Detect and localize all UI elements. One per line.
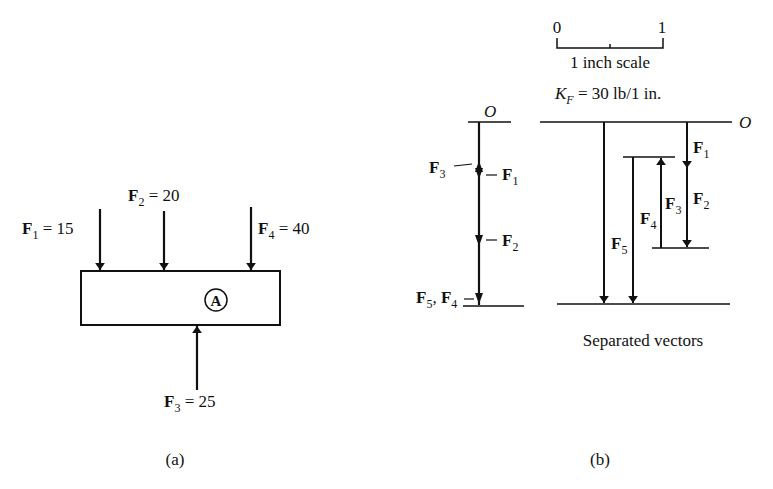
separated-vectors-caption: Separated vectors xyxy=(583,331,703,350)
force-f4-label: F4 = 40 xyxy=(258,219,309,242)
vector-f3-label: F3 xyxy=(665,194,681,217)
scale-start-label: 0 xyxy=(553,18,562,37)
separated-vector-diagram: O F5 F4 F3 F1 xyxy=(540,113,751,350)
scale-end-label: 1 xyxy=(658,18,667,37)
vector-f2-label: F2 xyxy=(693,189,709,212)
combined-f5-f4-label: F5, F4 xyxy=(416,288,457,311)
combined-vector-diagram: O F3 F1 F2 F5, F4 xyxy=(416,102,524,311)
scale-caption: 1 inch scale xyxy=(570,53,650,72)
force-diagram: A F1 = 15 F2 = 20 F4 = 40 F3 = 25 (a) 0 … xyxy=(0,0,773,489)
panel-a: A F1 = 15 F2 = 20 F4 = 40 F3 = 25 (a) xyxy=(22,186,309,469)
combined-f3-label: F3 xyxy=(429,158,445,181)
origin-label: O xyxy=(484,102,496,121)
kf-label: KF = 30 lb/1 in. xyxy=(554,84,661,107)
vector-f4-label: F4 xyxy=(640,209,656,232)
panel-b: 0 1 1 inch scale KF = 30 lb/1 in. O F3 xyxy=(416,18,751,469)
force-f3-label: F3 = 25 xyxy=(164,392,215,415)
caption-b: (b) xyxy=(590,450,610,469)
point-a-marker: A xyxy=(205,289,227,311)
scale-bar: 0 1 1 inch scale KF = 30 lb/1 in. xyxy=(553,18,667,107)
caption-a: (a) xyxy=(166,450,185,469)
combined-f1-label: F1 xyxy=(502,165,518,188)
origin-label: O xyxy=(739,113,751,132)
body-a-rectangle xyxy=(81,271,280,325)
vector-f1-label: F1 xyxy=(693,138,709,161)
combined-f2-label: F2 xyxy=(502,231,518,254)
force-f2-label: F2 = 20 xyxy=(128,186,179,209)
vector-f5-label: F5 xyxy=(611,234,627,257)
force-f1-label: F1 = 15 xyxy=(22,219,73,242)
point-a-label: A xyxy=(211,293,222,309)
